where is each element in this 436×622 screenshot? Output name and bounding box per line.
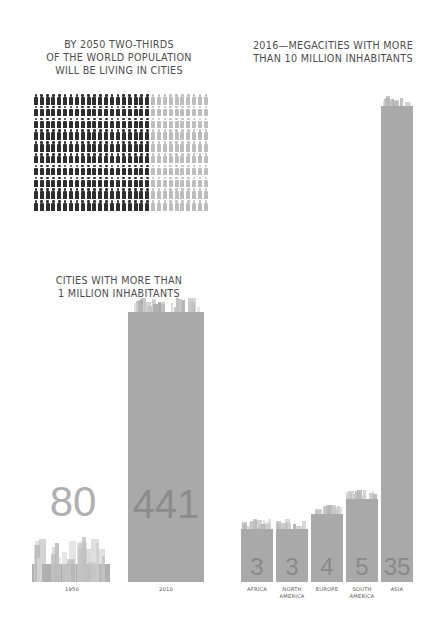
skyline-icon	[346, 489, 378, 499]
person-icon	[203, 129, 209, 140]
person-icon	[203, 118, 209, 129]
person-icon	[203, 165, 209, 176]
pictogram-row	[33, 141, 209, 153]
bar-north-america: 3	[276, 529, 308, 582]
megacities-title: 2016—MEGACITIES WITH MORE THAN 10 MILLIO…	[230, 39, 436, 65]
person-icon	[203, 200, 209, 211]
person-icon	[203, 153, 209, 164]
label-1950: 1950	[52, 586, 92, 593]
skyline-icon	[241, 519, 273, 529]
bar-2010: 441	[128, 312, 204, 582]
skyline-icon	[128, 298, 204, 312]
bar-south-america: 5	[346, 499, 378, 582]
pictogram-row	[33, 177, 209, 189]
pictogram-row	[33, 94, 209, 106]
bar-europe: 4	[311, 514, 343, 582]
pictogram-row	[33, 165, 209, 177]
population-pictogram	[33, 94, 209, 212]
person-icon	[203, 188, 209, 199]
person-icon	[203, 94, 209, 105]
skyline-icon	[381, 96, 413, 106]
value-europe: 4	[311, 555, 343, 579]
person-icon	[203, 177, 209, 188]
pictogram-row	[33, 106, 209, 118]
value-north-america: 3	[276, 555, 308, 579]
value-asia: 35	[381, 555, 413, 579]
value-1950: 80	[45, 481, 101, 523]
population-title: BY 2050 TWO-THIRDS OF THE WORLD POPULATI…	[20, 38, 218, 77]
bar-asia: 35	[381, 106, 413, 582]
pictogram-row	[33, 129, 209, 141]
skyline-icon	[276, 519, 308, 529]
label-asia: ASIA	[375, 586, 419, 593]
pictogram-row	[33, 118, 209, 130]
bar-1950-skyline	[32, 534, 110, 582]
label-2010: 2010	[146, 586, 186, 593]
value-south-america: 5	[346, 555, 378, 579]
pictogram-row	[33, 200, 209, 212]
person-icon	[203, 141, 209, 152]
skyline-icon	[311, 504, 343, 514]
value-2010: 441	[128, 484, 204, 524]
person-icon	[203, 106, 209, 117]
bar-africa: 3	[241, 529, 273, 582]
pictogram-row	[33, 153, 209, 165]
pictogram-row	[33, 188, 209, 200]
million-cities-title: CITIES WITH MORE THAN 1 MILLION INHABITA…	[20, 274, 218, 300]
value-africa: 3	[241, 555, 273, 579]
